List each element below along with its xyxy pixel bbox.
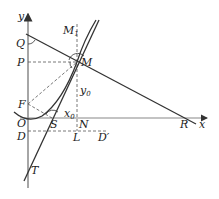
label-O: O <box>17 117 26 130</box>
label-y0: y0 <box>79 84 91 98</box>
label-y: y <box>17 10 25 23</box>
label-L: L <box>72 131 80 144</box>
label-D: D <box>16 130 26 143</box>
label-S: S <box>50 118 58 131</box>
label-M: M <box>80 56 93 69</box>
angle-arc-M-left <box>70 62 72 68</box>
tangent-line <box>24 20 99 181</box>
label-P: P <box>16 56 25 69</box>
label-Q: Q <box>16 37 25 50</box>
label-N: N <box>78 118 89 131</box>
label-x: x <box>199 118 206 131</box>
label-x0: x0 <box>64 107 75 121</box>
label-M1: M1 <box>62 24 79 38</box>
label-T: T <box>31 164 40 177</box>
label-R: R <box>179 118 188 131</box>
label-F: F <box>17 98 26 111</box>
angle-arc-Q <box>28 40 35 44</box>
geometry-diagram: y x Q P M1 M y0 F x0 O S N R D L D′ T <box>0 0 219 199</box>
label-Dp: D′ <box>97 131 110 144</box>
